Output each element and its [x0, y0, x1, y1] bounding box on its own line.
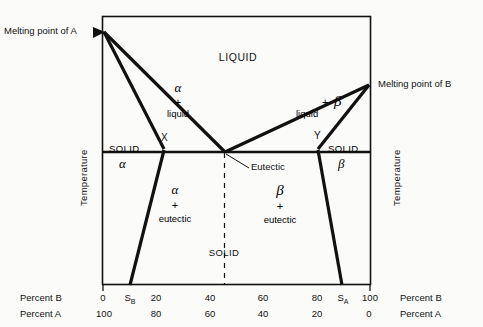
alpha-symbol: α: [152, 80, 204, 96]
melting-point-a-callout: Melting point of A: [4, 26, 77, 36]
bottom-right-label-percent-b: Percent B: [400, 292, 442, 303]
tick-percent-a-0: 0: [366, 308, 371, 319]
tick-percent-b-60: 60: [258, 292, 269, 303]
region-alpha-plus-eutectic: α + eutectic: [140, 182, 210, 224]
tick-percent-a-100: 100: [96, 308, 112, 319]
phase-diagram-canvas: [0, 0, 483, 327]
plus-symbol: +: [322, 96, 328, 108]
bottom-axis-ticks: [103, 285, 370, 291]
bottom-left-label-percent-a: Percent A: [20, 308, 61, 319]
beta-symbol: β: [245, 182, 315, 199]
bottom-left-label-percent-b: Percent B: [20, 292, 62, 303]
right-temperature-axis-label: Temperature: [391, 149, 402, 206]
point-y-label: Y: [314, 130, 321, 141]
eutectic-text: eutectic: [245, 214, 315, 225]
tick-solubility-limit-a: SA: [337, 292, 348, 305]
eutectic-text: eutectic: [140, 213, 210, 224]
solid-text: SOLID: [328, 143, 374, 154]
tick-percent-a-40: 40: [258, 308, 269, 319]
melting-point-b-callout: Melting point of B: [378, 79, 451, 89]
tick-percent-b-100: 100: [362, 292, 378, 303]
eutectic-callout: Eutectic: [251, 162, 285, 172]
solid-text: SOLID: [109, 143, 155, 154]
region-solid-bottom-label: SOLID: [209, 248, 240, 258]
liquid-text: liquid: [152, 108, 204, 119]
tick-solubility-limit-b: SB: [124, 292, 135, 305]
plus-symbol: +: [140, 199, 210, 211]
eutectic-leader-line: [226, 154, 249, 168]
region-alpha-plus-liquid: α + liquid: [152, 80, 204, 119]
region-liquid-plus-beta: + β liquid: [296, 96, 362, 112]
bottom-right-label-percent-a: Percent A: [400, 308, 441, 319]
beta-symbol: β: [338, 156, 374, 172]
plus-symbol: +: [245, 200, 315, 212]
s-b-subscript: B: [131, 298, 136, 305]
tick-percent-b-0: 0: [100, 292, 105, 303]
phase-diagram-figure: Melting point of A Melting point of B Eu…: [0, 0, 483, 327]
tick-percent-b-80: 80: [312, 292, 323, 303]
left-temperature-axis-label: Temperature: [78, 149, 89, 206]
tick-percent-b-40: 40: [205, 292, 216, 303]
tick-percent-a-20: 20: [312, 308, 323, 319]
tick-percent-a-60: 60: [205, 308, 216, 319]
region-solid-alpha: SOLID α: [109, 143, 155, 172]
tick-percent-b-20: 20: [151, 292, 162, 303]
s-a-subscript: A: [344, 298, 349, 305]
region-liquid-label: LIQUID: [219, 52, 258, 63]
solidus-beta-line: [318, 85, 369, 149]
region-beta-plus-eutectic: β + eutectic: [245, 182, 315, 225]
alpha-symbol: α: [119, 156, 155, 172]
point-x-label: X: [161, 132, 168, 143]
beta-symbol: β: [334, 93, 341, 110]
tick-percent-a-80: 80: [151, 308, 162, 319]
region-solid-beta: SOLID β: [328, 143, 374, 172]
plus-symbol: +: [152, 96, 204, 108]
alpha-symbol: α: [140, 182, 210, 198]
liquid-text: liquid: [296, 108, 318, 119]
